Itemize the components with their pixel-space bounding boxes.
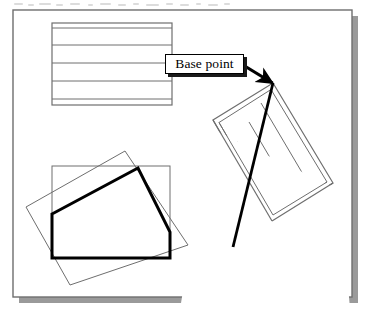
diagram-svg — [0, 0, 369, 309]
diagram-canvas: Base point — [0, 0, 369, 309]
base-point-label[interactable]: Base point — [165, 54, 244, 74]
original-hatched-rectangle — [52, 23, 172, 105]
original-rect-outer — [52, 23, 172, 105]
